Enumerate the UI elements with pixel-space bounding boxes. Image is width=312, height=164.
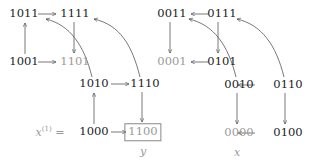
target-label-x: x: [234, 146, 240, 159]
node-0110: 0110: [273, 79, 302, 91]
node-0001: 0001: [157, 56, 186, 68]
node-1101: 1101: [60, 56, 89, 68]
node-1110: 1110: [130, 78, 159, 90]
edge-0010-0011-curve: [189, 19, 236, 77]
target-label-y: y: [140, 145, 146, 158]
node-0011: 0011: [157, 8, 186, 20]
node-1000: 1000: [79, 126, 108, 138]
node-1111: 1111: [60, 8, 89, 20]
edge-1010-1011-curve: [46, 19, 92, 77]
node-0100: 0100: [273, 127, 302, 139]
node-1011: 1011: [9, 8, 38, 20]
node-0111: 0111: [207, 8, 236, 20]
node-0000-target: 0000: [224, 127, 253, 139]
edge-1110-1111-curve: [94, 19, 140, 77]
node-1100-target: 1100: [124, 123, 161, 141]
node-1010: 1010: [79, 78, 108, 90]
node-0010: 0010: [224, 79, 253, 91]
node-0101: 0101: [207, 56, 236, 68]
edge-0110-0111-curve: [237, 19, 284, 77]
start-label: x(1) =: [36, 125, 65, 139]
node-1001: 1001: [9, 56, 38, 68]
